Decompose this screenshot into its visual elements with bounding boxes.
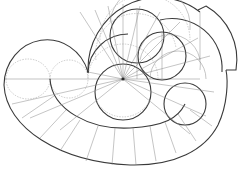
left-dashed-circle-1-lower — [6, 79, 50, 99]
inner-spiral-curve — [50, 79, 185, 128]
right-middle-arc — [160, 19, 222, 72]
left-outer-arc — [4, 40, 88, 85]
center-point — [121, 77, 124, 80]
diagram-canvas — [0, 0, 244, 171]
upper-outer-arc — [88, 0, 200, 72]
left-dashed-circle-2-lower — [50, 79, 88, 98]
tangent-point — [87, 71, 89, 73]
spiral-construction-diagram — [0, 0, 244, 171]
right-outermost-arc — [198, 6, 237, 70]
left-dashed-circle-1 — [6, 59, 50, 79]
construction-arcs — [88, 0, 206, 117]
left-dashed-circle-2 — [50, 60, 88, 79]
